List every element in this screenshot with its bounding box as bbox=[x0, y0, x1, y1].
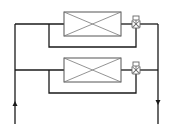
return-flow-arrow-down-icon bbox=[156, 100, 161, 105]
three-way-valve-1-icon bbox=[132, 16, 140, 28]
coil-unit-1 bbox=[64, 12, 121, 36]
supply-flow-arrow-up-icon bbox=[13, 101, 18, 106]
three-way-valve-2-icon bbox=[132, 62, 140, 74]
hydraulic-diagram bbox=[0, 0, 170, 135]
coil-unit-2 bbox=[64, 58, 121, 82]
